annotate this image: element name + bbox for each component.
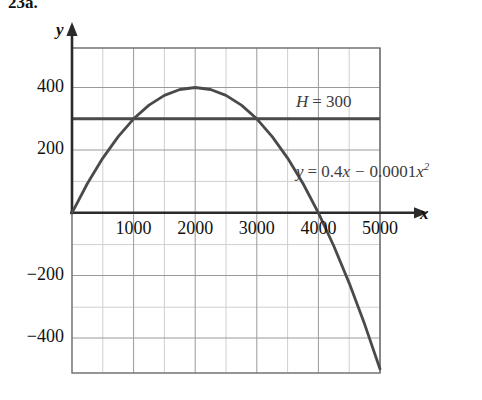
exercise-number-label: 23a. bbox=[8, 0, 38, 13]
equation-variable-1: x bbox=[342, 162, 350, 181]
y-axis-label: y bbox=[56, 20, 64, 40]
equation-coefficient-2: 0.0001 bbox=[370, 162, 417, 181]
y-tick-label-minus-200: −200 bbox=[8, 264, 64, 285]
equation-minus-sign: − bbox=[355, 162, 365, 181]
h-symbol: H bbox=[296, 92, 308, 111]
h-equals-sign: = bbox=[312, 92, 322, 111]
equation-lhs: y bbox=[296, 162, 304, 181]
x-axis-label: x bbox=[420, 204, 429, 224]
chart-canvas bbox=[0, 14, 482, 400]
y-tick-label-200: 200 bbox=[8, 138, 64, 159]
y-tick-label-minus-400: −400 bbox=[8, 326, 64, 347]
figure-page: 23a. bbox=[0, 0, 482, 400]
equation-coefficient-1: 0.4 bbox=[321, 162, 342, 181]
equation-variable-2: x bbox=[416, 162, 424, 181]
equation-equals-sign: = bbox=[308, 162, 318, 181]
equation-exponent-2: 2 bbox=[424, 160, 430, 172]
h-constant-annotation: H=300 bbox=[296, 92, 351, 112]
x-tick-label-5000: 5000 bbox=[344, 218, 416, 239]
y-tick-label-400: 400 bbox=[8, 76, 64, 97]
x-axis bbox=[70, 207, 428, 218]
chart-figure: y x 400 200 −200 −400 1000 2000 3000 400… bbox=[0, 14, 482, 400]
equation-annotation: y=0.4x−0.0001x2 bbox=[296, 160, 429, 182]
h-value: 300 bbox=[326, 92, 352, 111]
